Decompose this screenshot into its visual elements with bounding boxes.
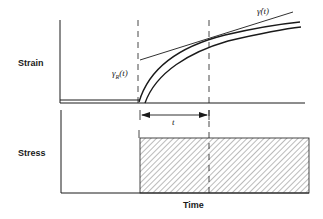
recoverable-strain-label: γR(t) — [112, 68, 128, 80]
strain-curve-upper — [139, 22, 300, 102]
tangent-line — [140, 12, 293, 60]
stress-panel: t Stress — [18, 110, 309, 193]
strain-panel: Strain γ̇(t) γR(t) — [18, 6, 305, 103]
strain-curve-lower — [145, 27, 301, 103]
creep-diagram: Strain γ̇(t) γR(t) t Stress Time — [0, 0, 323, 219]
time-axis-label: Time — [183, 200, 204, 210]
stress-applied-region — [140, 138, 309, 193]
stress-label: Stress — [18, 148, 46, 158]
tangent-label: γ̇(t) — [257, 6, 269, 16]
strain-label: Strain — [18, 58, 44, 68]
interval-label: t — [172, 117, 175, 127]
